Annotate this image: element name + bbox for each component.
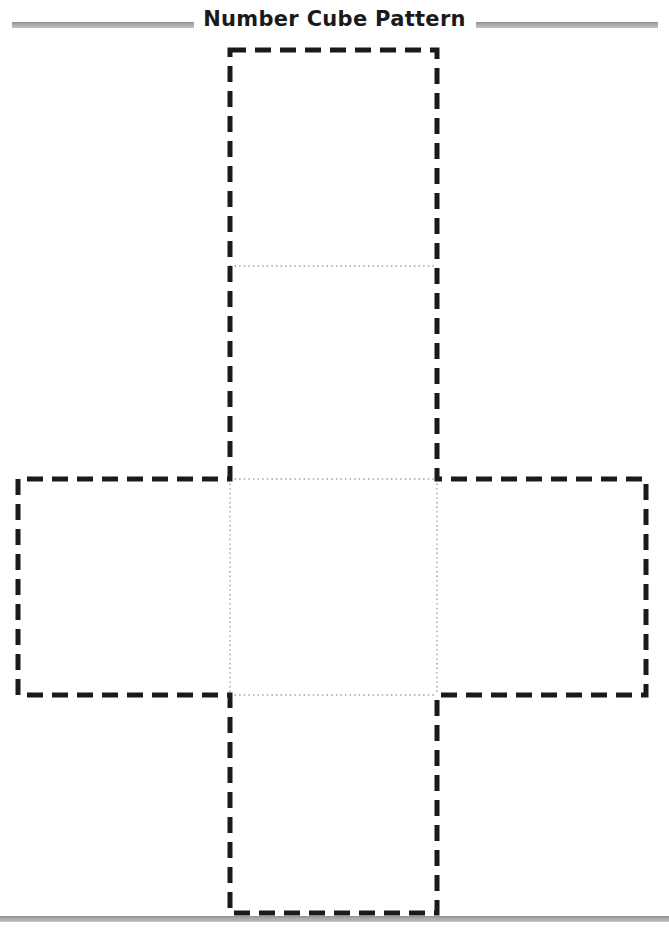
cut-outline-path	[18, 50, 646, 913]
fold-line-group	[230, 266, 437, 695]
cube-net-diagram	[0, 0, 669, 927]
cube-net-svg	[0, 0, 669, 927]
footer-rule	[0, 916, 669, 922]
worksheet-page: Number Cube Pattern	[0, 0, 669, 927]
